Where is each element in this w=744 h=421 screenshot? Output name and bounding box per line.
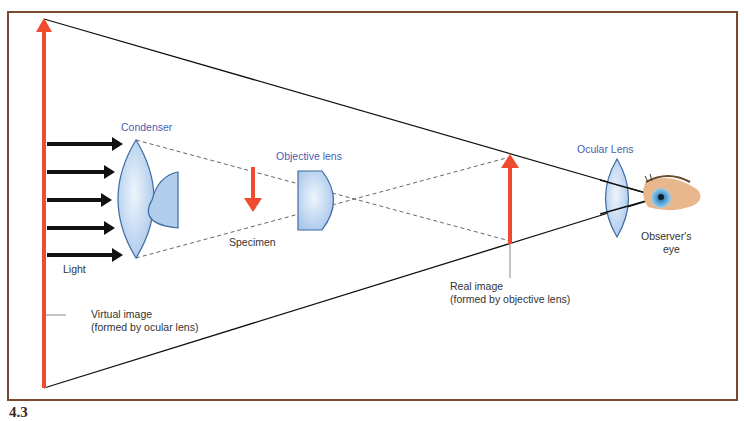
observer-eye-label: eye [663,243,680,256]
observer-eye-icon [643,174,700,210]
real-image-label: Real image [450,280,503,293]
condenser-label: Condenser [121,121,172,134]
figure-caption-number: 4.3 [9,404,28,421]
virtual-image-label: Virtual image [91,308,152,321]
ocular-lens [606,159,629,237]
virtual-image-sublabel: (formed by ocular lens) [91,321,198,334]
condenser-lens [118,140,178,258]
virtual-image-arrow [36,18,52,388]
real-image-arrow [501,154,519,244]
objective-lens [298,171,334,230]
ocular-lens-label: Ocular Lens [577,143,634,156]
specimen-label: Specimen [229,236,276,249]
objective-lens-label: Objective lens [276,150,342,163]
light-label: Light [63,263,86,276]
real-image-sublabel: (formed by objective lens) [450,293,570,306]
light-arrows [47,137,123,262]
observer-label: Observer's [641,230,691,243]
